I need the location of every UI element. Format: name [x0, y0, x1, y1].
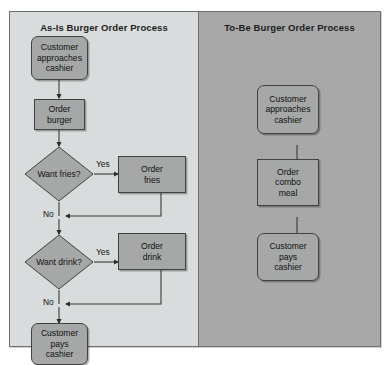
node-want-drink[interactable]: Want drink?	[24, 234, 94, 290]
node-as-is-start[interactable]: Customerapproachescashier	[31, 36, 88, 80]
edge-label-fries-yes: Yes	[96, 159, 110, 169]
node-order-burger[interactable]: Orderburger	[34, 99, 85, 130]
edge-label-fries-no: No	[43, 209, 54, 219]
node-order-combo-label: Ordercombomeal	[273, 167, 303, 198]
node-order-combo[interactable]: Ordercombomeal	[257, 159, 319, 206]
node-order-burger-label: Orderburger	[45, 104, 74, 125]
panel-as-is-title: As-Is Burger Order Process	[10, 22, 198, 33]
node-to-be-start-label: Customerapproachescashier	[264, 94, 313, 125]
node-to-be-end-label: Customerpayscashier	[267, 241, 308, 272]
node-want-fries[interactable]: Want fries?	[24, 146, 94, 202]
node-to-be-start[interactable]: Customerapproachescashier	[257, 85, 319, 134]
node-to-be-end[interactable]: Customerpayscashier	[257, 233, 319, 281]
node-want-fries-label: Want fries?	[24, 146, 94, 202]
edge-label-drink-yes: Yes	[96, 247, 110, 257]
node-as-is-end-label: Customerpayscashier	[39, 328, 80, 359]
node-as-is-start-label: Customerapproachescashier	[35, 42, 84, 73]
diagram-frame: As-Is Burger Order Process To-Be Burger …	[9, 11, 381, 347]
node-order-drink-label: Orderdrink	[139, 241, 165, 262]
edge-label-drink-no: No	[43, 297, 54, 307]
node-want-drink-label: Want drink?	[24, 234, 94, 290]
panel-to-be-title: To-Be Burger Order Process	[199, 22, 380, 33]
node-order-fries-label: Orderfries	[139, 164, 165, 185]
node-as-is-end[interactable]: Customerpayscashier	[31, 323, 88, 365]
node-order-drink[interactable]: Orderdrink	[118, 233, 186, 270]
node-order-fries[interactable]: Orderfries	[118, 156, 186, 193]
